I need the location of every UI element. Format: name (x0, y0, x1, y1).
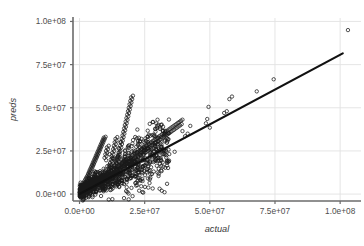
x-tick-label: 0.0e+00 (64, 206, 95, 216)
x-tick-label: 1.0e+08 (325, 206, 356, 216)
y-tick-label: 2.5e+07 (36, 146, 67, 156)
y-tick-label: 5.0e+07 (36, 103, 67, 113)
y-tick-label: 0.0e+00 (36, 189, 67, 199)
x-tick-label: 5.0e+07 (195, 206, 226, 216)
y-tick-label: 7.5e+07 (36, 60, 67, 70)
y-axis-title: preds (8, 98, 18, 122)
scatter-plot-figure: 0.0e+002.5e+075.0e+077.5e+071.0e+08 0.0e… (0, 0, 364, 246)
x-tick-label: 7.5e+07 (260, 206, 291, 216)
y-tick-label: 1.0e+08 (36, 16, 67, 26)
x-tick-label: 2.5e+07 (130, 206, 161, 216)
x-axis-title: actual (205, 224, 230, 234)
plot-canvas: 0.0e+002.5e+075.0e+077.5e+071.0e+08 0.0e… (0, 0, 364, 246)
figure-background (0, 0, 364, 246)
